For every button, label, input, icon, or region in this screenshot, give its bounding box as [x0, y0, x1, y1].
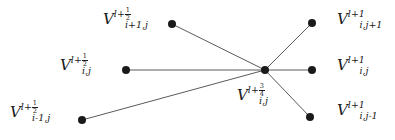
label-lower-left-subscript: i-1,j	[32, 113, 50, 123]
label-upper-right: Vl+1i,j+1	[337, 12, 382, 27]
label-lower-right-subscript: i,j-1	[359, 111, 377, 121]
label-upper-right-superscript: l+1	[348, 9, 365, 19]
label-upper-left-superscript: l+	[114, 9, 125, 19]
label-middle-left-superscript: l+	[71, 55, 82, 65]
label-upper-right-base: V	[337, 10, 348, 28]
label-center-superscript: l+	[248, 85, 259, 95]
label-middle-left: Vl+12i,j	[60, 58, 91, 75]
label-lower-right: Vl+1i,j-1	[337, 103, 378, 118]
label-center-subscript: i,j	[259, 96, 268, 106]
label-lower-left-superscript: l+	[21, 102, 32, 112]
label-middle-right: Vl+1i,j	[337, 58, 368, 73]
label-middle-right-superscript: l+1	[348, 55, 365, 65]
label-upper-left: Vl+12i+1,j	[103, 12, 148, 29]
node-center	[261, 66, 269, 74]
edge-center-to-upper-right	[265, 23, 312, 70]
node-middle-left	[122, 66, 130, 74]
label-upper-left-base: V	[103, 10, 114, 28]
node-lower-right	[306, 113, 314, 121]
node-middle-right	[308, 66, 316, 74]
label-middle-right-base: V	[337, 56, 348, 74]
node-lower-left	[78, 116, 86, 124]
label-upper-left-subscript: i+1,j	[125, 20, 148, 30]
label-center-base: V	[237, 86, 248, 104]
node-upper-left	[168, 20, 176, 28]
stencil-figure: Vl+12i+1,j Vl+12i,j Vl+12i-1,j Vl+34i,j …	[0, 0, 395, 140]
label-lower-right-superscript: l+1	[348, 100, 365, 110]
label-upper-right-subscript: i,j+1	[359, 20, 382, 30]
label-middle-left-subscript: i,j	[82, 66, 91, 76]
label-lower-right-base: V	[337, 101, 348, 119]
node-upper-right	[308, 19, 316, 27]
edge-center-to-lower-right	[265, 70, 310, 117]
edge-upper-left-to-center	[172, 24, 265, 70]
label-middle-right-subscript: i,j	[359, 66, 368, 76]
label-center: Vl+34i,j	[237, 88, 268, 105]
label-lower-left: Vl+12i-1,j	[10, 105, 50, 122]
label-lower-left-base: V	[10, 103, 21, 121]
label-middle-left-base: V	[60, 56, 71, 74]
